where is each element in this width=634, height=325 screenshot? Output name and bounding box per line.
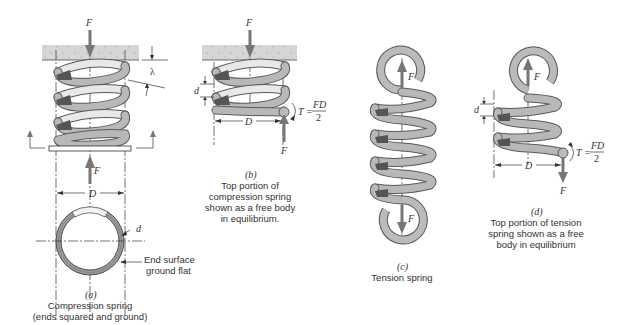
deflection-label: λ xyxy=(150,66,155,77)
force-arrow-down-icon xyxy=(558,172,568,183)
force-arrow-down-icon xyxy=(397,222,407,234)
end-view-ring xyxy=(36,207,145,275)
panel-a-caption-2: (ends squared and ground) xyxy=(33,311,148,322)
torque-arrow-icon xyxy=(570,145,574,161)
force-label-top: F xyxy=(85,17,93,28)
force-label-bottom: F xyxy=(559,185,567,196)
panel-b-caption-4: in equilibrium. xyxy=(221,213,280,224)
panel-d-caption: Top portion of tension xyxy=(491,217,582,228)
wire-diameter-label: d xyxy=(474,104,480,115)
spring-diagram: F F λ D d End surface ground fla xyxy=(0,0,634,325)
panel-a-compression-spring: F F λ D d End surface ground fla xyxy=(27,17,195,322)
torque-denominator: 2 xyxy=(594,153,599,164)
force-label-bottom: F xyxy=(280,145,288,156)
torque-label: T = xyxy=(576,147,591,158)
annotation-ground-flat: ground flat xyxy=(146,265,191,276)
panel-d-tension-free-body: F F d D T = FD 2 (d) Top portion of tens… xyxy=(474,51,605,250)
annotation-end-surface: End surface xyxy=(144,254,195,265)
force-label-top: F xyxy=(533,71,541,82)
panel-b-compression-free-body: F F d D T = FD 2 (b) Top portion of comp… xyxy=(194,17,327,224)
panel-d-caption-2: spring shown as a free xyxy=(488,228,584,239)
force-label-bottom: F xyxy=(407,213,415,224)
panel-a-caption: Compression spring xyxy=(48,300,132,311)
force-arrow-up-icon xyxy=(397,60,407,72)
compression-coils xyxy=(56,63,126,145)
free-body-coils xyxy=(497,98,568,158)
panel-d-caption-3: body in equilibrium xyxy=(496,239,575,250)
force-arrow-up-icon xyxy=(523,58,533,70)
wire-diameter-label: d xyxy=(194,85,200,96)
bottom-plate xyxy=(49,146,131,151)
tension-coils xyxy=(374,92,432,200)
torque-numerator: FD xyxy=(590,140,605,151)
diameter-label: D xyxy=(524,160,533,171)
force-label-top: F xyxy=(245,17,253,28)
torque-denominator: 2 xyxy=(316,112,321,123)
free-body-coils xyxy=(214,63,289,117)
force-label-top: F xyxy=(407,71,415,82)
torque-numerator: FD xyxy=(312,99,327,110)
panel-b-caption-3: shown as a free body xyxy=(205,202,296,213)
panel-b-caption-2: compression spring xyxy=(209,191,291,202)
wire-diameter-label: d xyxy=(136,223,142,234)
panel-b-caption: Top portion of xyxy=(221,180,279,191)
force-label-bottom: F xyxy=(93,165,101,176)
diameter-label: D xyxy=(244,116,253,127)
torque-label: T = xyxy=(298,106,313,117)
panel-c-tension-spring: F F (c) Tension spring xyxy=(371,50,432,283)
diameter-label: D xyxy=(88,188,97,199)
panel-c-caption: Tension spring xyxy=(371,272,432,283)
